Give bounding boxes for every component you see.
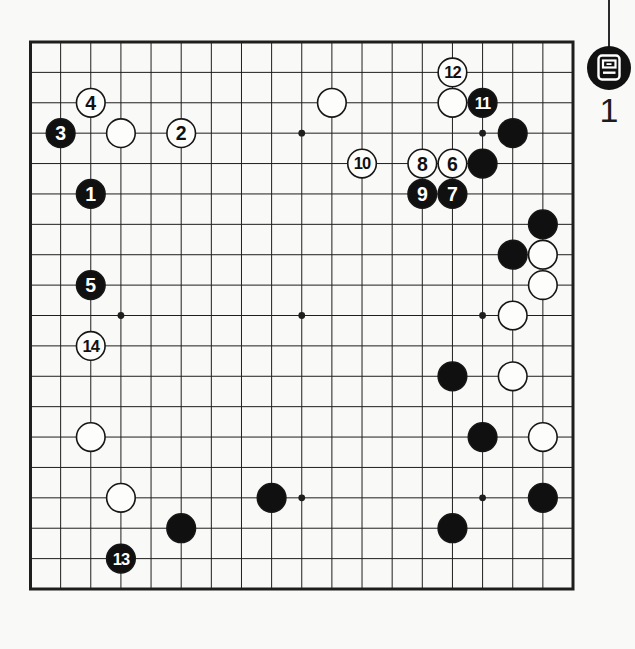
figure-number: 1 <box>583 92 635 128</box>
stone-white <box>107 119 136 148</box>
move-number: 12 <box>444 63 461 81</box>
star-point <box>298 494 305 501</box>
move-number: 5 <box>85 274 96 296</box>
move-number: 6 <box>447 153 458 175</box>
move-number: 8 <box>417 153 428 175</box>
diagram-marker-circle <box>587 46 631 90</box>
stone-white <box>498 362 527 391</box>
move-number: 1 <box>85 183 96 205</box>
star-point <box>479 312 486 319</box>
stone-black <box>498 240 527 269</box>
stone-black <box>167 514 196 543</box>
margin-rule-line <box>608 0 610 47</box>
stone-black <box>468 423 497 452</box>
move-number: 7 <box>447 183 458 205</box>
move-number: 11 <box>475 94 491 112</box>
star-point <box>479 494 486 501</box>
move-number: 14 <box>83 337 101 355</box>
stone-white <box>318 88 347 117</box>
stone-black <box>529 210 558 239</box>
stone-black <box>438 514 467 543</box>
move-number: 2 <box>176 122 187 144</box>
stone-black <box>468 149 497 178</box>
star-point <box>298 130 305 137</box>
move-number: 3 <box>55 122 66 144</box>
stone-white <box>498 301 527 330</box>
stone-black <box>529 484 558 513</box>
stone-white <box>107 484 136 513</box>
stone-black <box>438 362 467 391</box>
star-point <box>298 312 305 319</box>
move-number: 10 <box>354 154 371 172</box>
stone-white <box>529 423 558 452</box>
stone-white <box>529 271 558 300</box>
diagram-icon <box>595 53 623 83</box>
stone-white <box>438 88 467 117</box>
figure-marker: 1 <box>583 0 629 140</box>
move-number: 9 <box>417 183 428 205</box>
star-point <box>479 130 486 137</box>
stone-black <box>498 119 527 148</box>
move-number: 13 <box>113 550 130 568</box>
move-number: 4 <box>85 92 96 114</box>
stone-black <box>257 484 286 513</box>
stone-white <box>529 240 558 269</box>
stone-white <box>76 423 105 452</box>
star-point <box>118 312 125 319</box>
